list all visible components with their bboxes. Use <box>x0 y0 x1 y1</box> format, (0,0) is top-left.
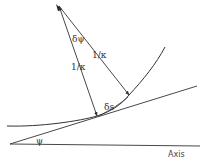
curve <box>7 47 165 126</box>
center-of-curvature-marker <box>56 4 62 11</box>
radius-left <box>59 6 97 116</box>
label-delta-s: δs <box>104 102 114 112</box>
label-radius-right: 1/κ <box>92 50 107 60</box>
curvature-diagram: δψ 1/κ 1/κ δs ψ Axis <box>0 0 206 165</box>
label-psi: ψ <box>36 136 43 146</box>
label-axis: Axis <box>168 150 185 159</box>
label-radius-left: 1/κ <box>71 62 86 72</box>
label-delta-psi: δψ <box>72 34 84 44</box>
